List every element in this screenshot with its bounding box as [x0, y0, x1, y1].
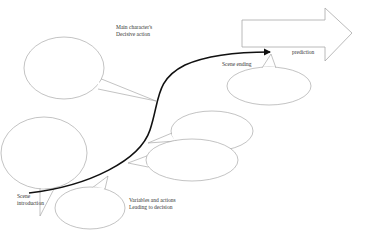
- diagram-graphics: [0, 0, 370, 239]
- variables-label-line1: Variables and actions: [129, 197, 176, 204]
- decisive-action-label: Main character's Decisive action: [116, 24, 152, 37]
- variables-label-line2: Leading to decision: [129, 204, 176, 211]
- scene-intro-label-line2: introduction: [17, 200, 44, 207]
- story-arc-diagram: Main character's Decisive action Scene e…: [0, 0, 370, 239]
- decisive-action-label-line1: Main character's: [116, 24, 152, 31]
- lower-right-bubble: [128, 139, 238, 181]
- variables-label: Variables and actions Leading to decisio…: [129, 197, 176, 210]
- decisive-action-bubble: [24, 37, 156, 101]
- scene-ending-label: Scene ending: [222, 61, 251, 68]
- scene-introduction-label: Scene introduction: [17, 193, 44, 206]
- prediction-label: prediction: [292, 49, 314, 56]
- decisive-action-label-line2: Decisive action: [116, 31, 152, 38]
